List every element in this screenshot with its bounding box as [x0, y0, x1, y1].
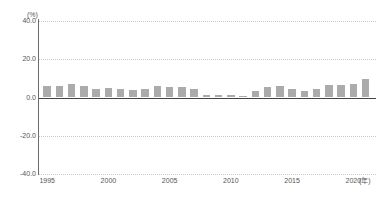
- x-axis-tick-label: 2000: [101, 177, 117, 185]
- bar: [129, 90, 137, 98]
- bar: [301, 91, 309, 98]
- y-axis-tick-label: -40.0: [2, 170, 36, 178]
- y-axis-tick-label: 0.0: [2, 94, 36, 102]
- gridline: [38, 174, 376, 175]
- bar: [190, 89, 198, 97]
- bar: [56, 86, 64, 97]
- bar: [105, 88, 113, 98]
- bar: [313, 89, 321, 98]
- y-axis-tick-label: 40.0: [2, 17, 36, 25]
- bar: [350, 84, 358, 97]
- x-axis-tick-label: 1995: [39, 177, 55, 185]
- y-axis-tick-label: 20.0: [2, 55, 36, 63]
- bar: [92, 89, 100, 98]
- bar: [362, 79, 370, 98]
- bar: [117, 89, 125, 98]
- bar: [288, 89, 296, 98]
- bar: [80, 86, 88, 97]
- bar: [43, 86, 51, 97]
- bar-chart: (%) (年) 40.020.00.0-20.0-40.0 1995200020…: [0, 0, 382, 198]
- bar: [276, 86, 284, 98]
- plot-area: [38, 21, 376, 174]
- bar: [264, 87, 272, 98]
- y-axis-line: [38, 19, 39, 175]
- x-axis-tick-label: 2010: [223, 177, 239, 185]
- zero-baseline: [38, 98, 376, 99]
- bar: [337, 85, 345, 98]
- y-axis-tick-labels: 40.020.00.0-20.0-40.0: [0, 21, 36, 174]
- x-axis-tick-label: 2020: [346, 177, 362, 185]
- bar: [252, 91, 260, 98]
- y-axis-tick-label: -20.0: [2, 132, 36, 140]
- bar: [141, 89, 149, 97]
- bar: [325, 85, 333, 98]
- bar: [68, 84, 76, 97]
- x-axis-tick-label: 2005: [162, 177, 178, 185]
- bar: [154, 86, 162, 97]
- x-axis-tick-label: 2015: [284, 177, 300, 185]
- bar: [166, 87, 174, 97]
- bar: [178, 87, 186, 97]
